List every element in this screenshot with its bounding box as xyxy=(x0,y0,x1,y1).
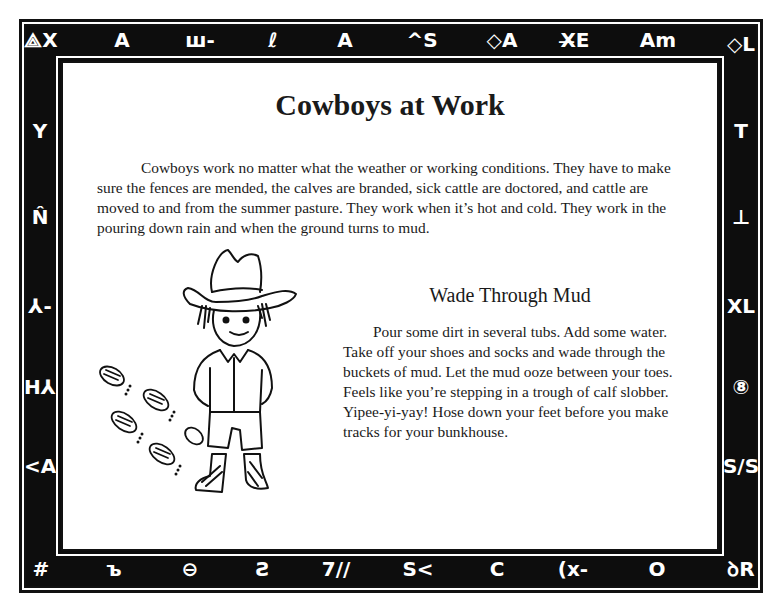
brand-icon-top-9: ◇L xyxy=(721,34,761,54)
brand-icon-left-0: Y xyxy=(20,121,60,141)
brand-icon-top-6: ◇A xyxy=(482,30,522,50)
brand-icon-bottom-0: # xyxy=(21,559,61,579)
brand-icon-right-0: T xyxy=(721,121,761,141)
brand-icon-top-5: ^S xyxy=(402,30,442,50)
brand-icon-top-8: Am xyxy=(638,30,678,50)
cowboy-illustration xyxy=(90,240,320,520)
brand-icon-top-2: ш- xyxy=(180,30,220,50)
activity-body: Pour some dirt in several tubs. Add some… xyxy=(343,322,688,442)
brand-icon-right-3: ⑧ xyxy=(721,377,761,397)
brand-icon-bottom-6: C xyxy=(477,559,517,579)
brand-icon-right-4: S/S xyxy=(721,456,761,476)
brand-icon-bottom-3: Ƨ xyxy=(243,559,283,579)
brand-icon-left-1: N̂ xyxy=(20,207,60,227)
brand-icon-top-0: ⟁X xyxy=(21,30,61,50)
brand-icon-bottom-9: ꝺR xyxy=(721,559,761,579)
brand-icon-bottom-7: (x- xyxy=(553,559,593,579)
brand-icon-bottom-8: O xyxy=(637,559,677,579)
brand-icon-right-1: ⊥ xyxy=(721,207,761,227)
intro-paragraph: Cowboys work no matter what the weather … xyxy=(97,158,691,238)
brand-icon-left-4: <A xyxy=(20,456,60,476)
brand-icon-left-3: H⅄ xyxy=(20,377,60,397)
brand-icon-top-1: A xyxy=(102,30,142,50)
brand-icon-left-2: ⅄- xyxy=(20,296,60,316)
brand-icon-bottom-1: ъ xyxy=(94,559,134,579)
activity-title: Wade Through Mud xyxy=(340,284,680,307)
brand-icon-bottom-2: ⊖ xyxy=(170,559,210,579)
brand-icon-bottom-4: 7// xyxy=(316,559,356,579)
brand-icon-right-2: XL xyxy=(721,296,761,316)
brand-icon-top-4: A xyxy=(325,30,365,50)
brand-icon-top-7: X̶E xyxy=(555,30,595,50)
page-title: Cowboys at Work xyxy=(61,88,719,122)
brand-icon-bottom-5: S< xyxy=(398,559,438,579)
brand-icon-top-3: ℓ xyxy=(253,30,293,50)
